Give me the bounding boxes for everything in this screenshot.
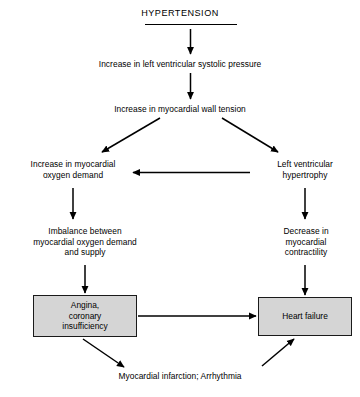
node-systolic-pressure: Increase in left ventricular systolic pr… xyxy=(0,59,360,70)
node-outcome: Myocardial infarction; Arrhythmia xyxy=(0,371,360,382)
node-contractility: Decrease in myocardial contractility xyxy=(254,226,358,258)
node-contractility-line1: Decrease in xyxy=(254,226,358,237)
node-oxygen-demand: Increase in myocardial oxygen demand xyxy=(6,159,140,180)
node-heart-failure-box: Heart failure xyxy=(258,297,352,336)
node-imbalance: Imbalance between myocardial oxygen dema… xyxy=(4,226,166,258)
node-lv-hypertrophy-line2: hypertrophy xyxy=(252,170,358,181)
node-lv-hypertrophy-line1: Left ventricular xyxy=(252,159,358,170)
node-imbalance-line3: and supply xyxy=(4,247,166,258)
node-lv-hypertrophy: Left ventricular hypertrophy xyxy=(252,159,358,180)
node-angina-line1: Angina, xyxy=(71,300,99,310)
node-outcome-label: Myocardial infarction; Arrhythmia xyxy=(0,371,360,382)
page-title-text: HYPERTENSION xyxy=(141,8,219,18)
node-oxygen-demand-line1: Increase in myocardial xyxy=(6,159,140,170)
node-angina-box: Angina, coronary insufficiency xyxy=(33,295,137,337)
title-underline xyxy=(145,24,237,25)
node-systolic-pressure-line1: Increase in left ventricular systolic pr… xyxy=(0,59,360,70)
node-oxygen-demand-line2: oxygen demand xyxy=(6,170,140,181)
arrow-walltension-to-oxygendemand xyxy=(102,118,160,152)
node-angina-line2: coronary xyxy=(69,311,102,321)
node-wall-tension-line1: Increase in myocardial wall tension xyxy=(0,104,360,115)
node-angina-line3: insufficiency xyxy=(62,321,107,331)
arrow-outcome-to-heartfailure xyxy=(262,339,294,366)
node-contractility-line2: myocardial xyxy=(254,237,358,248)
node-contractility-line3: contractility xyxy=(254,247,358,258)
node-imbalance-line1: Imbalance between xyxy=(4,226,166,237)
node-imbalance-line2: myocardial oxygen demand xyxy=(4,237,166,248)
arrow-angina-to-outcome xyxy=(83,339,124,367)
arrow-walltension-to-hypertrophy xyxy=(222,118,278,152)
page-title: HYPERTENSION xyxy=(0,8,360,19)
node-wall-tension: Increase in myocardial wall tension xyxy=(0,104,360,115)
node-heart-failure-label: Heart failure xyxy=(282,311,328,321)
hypertension-flowchart: HYPERTENSION Increase in left ventricula… xyxy=(0,0,360,397)
